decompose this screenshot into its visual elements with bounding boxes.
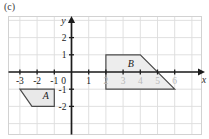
xtick-label--3: -3 <box>16 76 24 86</box>
ytick-label-neg1: -1 <box>59 85 67 95</box>
xtick-label--1: -1 <box>50 76 58 86</box>
xtick-label-4: 4 <box>138 76 143 86</box>
xtick-label--2: -2 <box>33 76 41 86</box>
xtick-label-1: 1 <box>86 76 91 86</box>
shape-label-a: A <box>42 90 50 101</box>
ytick-label-2: 2 <box>62 33 67 43</box>
figure-root: (c) -3-2-1012345621-1-2 xy AB <box>0 0 209 139</box>
shape-a <box>20 89 54 106</box>
coordinate-grid-graph: -3-2-1012345621-1-2 xy AB <box>0 0 209 139</box>
xtick-label-3: 3 <box>121 76 126 86</box>
ytick-label-neg2: -2 <box>59 102 67 112</box>
xtick-label-6: 6 <box>172 76 177 86</box>
xtick-label-5: 5 <box>155 76 160 86</box>
xtick-label-2: 2 <box>104 76 109 86</box>
shape-label-b: B <box>128 58 134 69</box>
ytick-label-1: 1 <box>62 50 67 60</box>
y-axis-label: y <box>60 15 66 26</box>
plot-svg: -3-2-1012345621-1-2 xy AB <box>0 0 209 139</box>
y-axis-arrowhead <box>68 16 75 23</box>
x-axis-label: x <box>201 74 207 85</box>
